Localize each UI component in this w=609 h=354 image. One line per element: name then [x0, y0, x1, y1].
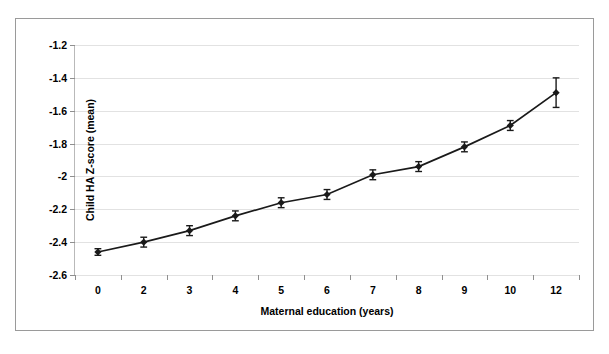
data-point — [461, 142, 468, 152]
x-axis-tick — [442, 275, 443, 280]
y-axis-tick-label: -1.4 — [49, 72, 67, 84]
y-axis-title: Child HA Z-score (mean) — [84, 99, 96, 221]
marker-diamond — [140, 239, 147, 246]
y-axis-tick-label: -2 — [58, 170, 67, 182]
data-point — [552, 78, 559, 108]
x-axis-tick-label: 8 — [416, 284, 422, 296]
x-axis-tick — [304, 275, 305, 280]
marker-diamond — [232, 212, 239, 219]
data-point — [323, 190, 330, 200]
x-axis-tick-label: 7 — [370, 284, 376, 296]
x-axis-tick-label: 10 — [504, 284, 516, 296]
x-axis-tick-label: 2 — [141, 284, 147, 296]
marker-diamond — [94, 248, 101, 255]
x-axis-tick-label: 6 — [324, 284, 330, 296]
x-axis-tick — [579, 275, 580, 280]
x-axis-tick — [212, 275, 213, 280]
marker-diamond — [323, 191, 330, 198]
x-axis-tick — [167, 275, 168, 280]
marker-diamond — [278, 199, 285, 206]
x-axis-tick-label: 5 — [278, 284, 284, 296]
data-point — [278, 198, 285, 208]
data-point — [507, 121, 514, 131]
x-axis-tick-label: 3 — [187, 284, 193, 296]
chart-frame: -1.2-1.4-1.6-1.8-2-2.2-2.4-2.6 023456789… — [15, 18, 594, 331]
x-axis-tick — [121, 275, 122, 280]
y-axis-tick-label: -1.8 — [49, 138, 67, 150]
data-series-line — [75, 45, 579, 275]
data-point — [415, 162, 422, 172]
series-polyline — [98, 93, 556, 252]
x-axis-tick — [396, 275, 397, 280]
gridline-horizontal — [75, 275, 579, 276]
data-point — [94, 248, 101, 255]
x-axis-tick — [75, 275, 76, 280]
x-axis-tick-label: 9 — [462, 284, 468, 296]
marker-diamond — [415, 163, 422, 170]
x-axis-title: Maternal education (years) — [75, 305, 579, 317]
data-point — [140, 237, 147, 247]
x-axis-tick — [350, 275, 351, 280]
x-axis-tick — [487, 275, 488, 280]
data-point — [186, 226, 193, 236]
x-axis-tick — [533, 275, 534, 280]
marker-diamond — [461, 143, 468, 150]
data-point — [232, 211, 239, 221]
x-axis-tick-label: 12 — [550, 284, 562, 296]
y-axis-tick-label: -1.2 — [49, 39, 67, 51]
y-axis-tick-label: -2.2 — [49, 203, 67, 215]
y-axis-tick-label: -1.6 — [49, 105, 67, 117]
x-axis-tick — [258, 275, 259, 280]
x-axis-tick-label: 4 — [232, 284, 238, 296]
marker-diamond — [369, 171, 376, 178]
y-axis-tick-label: -2.4 — [49, 236, 67, 248]
data-point — [369, 170, 376, 180]
plot-area: -1.2-1.4-1.6-1.8-2-2.2-2.4-2.6 023456789… — [74, 45, 579, 276]
x-axis-tick-label: 0 — [95, 284, 101, 296]
marker-diamond — [186, 227, 193, 234]
y-axis-tick-label: -2.6 — [49, 269, 67, 281]
